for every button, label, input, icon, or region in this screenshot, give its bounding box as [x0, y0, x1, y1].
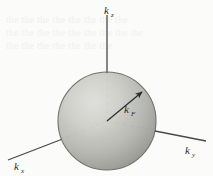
- kx-axis-label-group: k x: [14, 160, 25, 175]
- kz-axis-label-group: k z: [104, 4, 114, 19]
- kx-axis-label: k: [14, 160, 20, 172]
- ky-axis-label-subscript: y: [191, 151, 196, 159]
- fermi-sphere-diagram: k z k y k x k F: [0, 0, 213, 176]
- kz-axis-label: k: [104, 4, 110, 16]
- kx-axis-label-subscript: x: [20, 167, 25, 175]
- kx-axis-line: [8, 140, 60, 160]
- ky-axis-label-group: k y: [185, 144, 196, 159]
- fermi-sphere-figure: the the the the the the the the the the …: [0, 0, 213, 176]
- ky-axis-label: k: [185, 144, 191, 156]
- kF-label-subscript: F: [130, 110, 136, 118]
- kz-axis-label-subscript: z: [110, 11, 114, 19]
- ky-axis-line: [155, 131, 206, 141]
